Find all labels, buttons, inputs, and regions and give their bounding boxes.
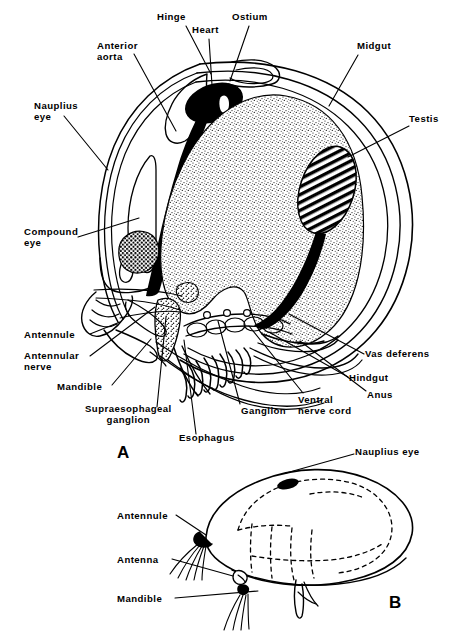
- label-nauplius-eye: Nauplius eye: [34, 100, 78, 122]
- mandible-b-base: [237, 584, 249, 595]
- nauplius-eye-b-organ: [276, 476, 300, 491]
- label-vas-deferens: Vas deferens: [365, 348, 430, 359]
- panel-a-drawing: [82, 60, 413, 409]
- panel-label-a: A: [117, 443, 130, 463]
- label-mandible: Mandible: [57, 381, 102, 392]
- label-supraesophageal-ganglion: Supraesophageal ganglion: [85, 403, 172, 425]
- internal-dashed-outlines: [238, 479, 392, 580]
- label-anus: Anus: [367, 389, 393, 400]
- label-antennular-nerve: Antennular nerve: [24, 350, 79, 372]
- label-b-antenna: Antenna: [117, 554, 159, 565]
- antennule-segment-2: [92, 310, 119, 317]
- leader-ganglion: [218, 321, 240, 404]
- label-b-nauplius-eye: Nauplius eye: [355, 446, 420, 457]
- mandible-appendage: [104, 330, 157, 362]
- label-testis: Testis: [409, 113, 439, 124]
- label-ganglion: Ganglion: [241, 405, 286, 416]
- label-b-antennule: Antennule: [117, 510, 168, 521]
- panel-b-drawing: [170, 470, 413, 630]
- labrum-node: [176, 283, 198, 303]
- leader-testis: [348, 126, 409, 157]
- leader-midgut: [329, 55, 358, 106]
- posterior-appendage-b-3: [298, 592, 316, 604]
- leader-heart: [209, 39, 212, 85]
- antennule-segment-3: [90, 320, 117, 327]
- label-anterior-aorta: Anterior aorta: [97, 40, 138, 62]
- antennule-b-setae: [170, 544, 206, 580]
- leader-anterior-aorta: [134, 54, 176, 131]
- mandible-b-setae: [224, 594, 249, 630]
- label-heart: Heart: [192, 24, 219, 35]
- label-hinge: Hinge: [157, 11, 186, 22]
- carapace-b-outline: [206, 470, 413, 586]
- label-esophagus: Esophagus: [179, 432, 235, 443]
- label-hindgut: Hindgut: [349, 372, 388, 383]
- label-ostium: Ostium: [232, 11, 268, 22]
- leader-ostium: [230, 26, 249, 81]
- panel-label-b: B: [389, 593, 402, 613]
- leader-b-antennule: [176, 515, 206, 535]
- label-ventral-nerve-cord: Ventral nerve cord: [298, 394, 352, 416]
- label-midgut: Midgut: [357, 40, 391, 51]
- leader-nauplius-eye: [64, 116, 108, 170]
- label-compound-eye: Compound eye: [24, 226, 78, 248]
- label-antennule: Antennule: [24, 329, 75, 340]
- carapace-b-ventral: [232, 558, 406, 585]
- figure-page: Hinge Heart Ostium Anterior aorta Midgut…: [0, 0, 457, 639]
- label-b-mandible: Mandible: [117, 593, 162, 604]
- anatomy-figure: [0, 0, 457, 639]
